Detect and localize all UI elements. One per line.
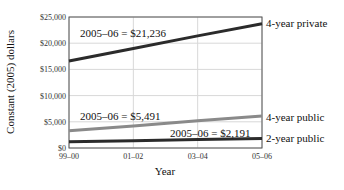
annotation-public-4yr: 2005–06 = $5,491 [80,110,160,122]
x-tick: 99–00 [59,152,79,161]
x-axis-label: Year [155,165,176,177]
x-tick: 01–02 [123,152,143,161]
tuition-chart: $0$5,000$10,000$15,000$20,000$25,000 99–… [0,0,344,190]
y-tick: $15,000 [40,65,66,74]
legend-public-4yr: 4-year public [266,111,324,123]
x-tick: 05–06 [252,152,272,161]
y-axis-label: Constant (2005) dollars [4,30,17,134]
y-tick: $25,000 [40,13,66,22]
y-tick: $20,000 [40,39,66,48]
annotation-private: 2005–06 = $21,236 [80,27,166,39]
x-tick: 03–04 [188,152,208,161]
x-axis-ticks: 99–0001–0203–0405–06 [59,152,272,161]
series-lines [69,24,262,142]
legend-private: 4-year private [266,17,327,29]
y-tick: $10,000 [40,92,66,101]
y-axis-ticks: $0$5,000$10,000$15,000$20,000$25,000 [40,13,66,153]
annotation-public-2yr: 2005–06 = $2,191 [170,127,250,139]
series-line [69,139,262,142]
legend-public-2yr: 2-year public [266,132,324,144]
y-tick: $5,000 [44,118,66,127]
